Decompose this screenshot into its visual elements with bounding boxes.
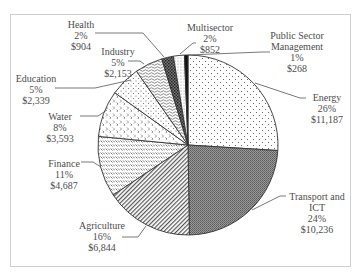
label-energy-name: Energy [307, 92, 347, 103]
label-education: Education 5% $2,339 [14, 73, 58, 106]
label-water-value: $3,593 [40, 133, 80, 144]
label-health: Health 2% $904 [66, 19, 96, 52]
label-psm-name2: Management [264, 41, 330, 52]
label-industry: Industry 5% $2,153 [98, 46, 138, 79]
label-industry-value: $2,153 [98, 68, 138, 79]
label-public-sector-management: Public Sector Management 1% $268 [264, 30, 330, 74]
label-agriculture-percent: 16% [76, 231, 128, 242]
label-industry-name: Industry [98, 46, 138, 57]
label-multisector: Multisector 2% $852 [185, 22, 235, 55]
label-multisector-name: Multisector [185, 22, 235, 33]
label-transport-name2: ICT [284, 202, 350, 213]
label-transport: Transport and ICT 24% $10,236 [284, 191, 350, 235]
label-agriculture-name: Agriculture [76, 220, 128, 231]
label-water: Water 8% $3,593 [40, 111, 80, 144]
label-education-name: Education [14, 73, 58, 84]
label-education-percent: 5% [14, 84, 58, 95]
label-water-percent: 8% [40, 122, 80, 133]
label-energy: Energy 26% $11,187 [307, 92, 347, 125]
pie-slice-transport-and-ict [188, 145, 278, 235]
label-psm-value: $268 [264, 63, 330, 74]
pie-slices [98, 55, 278, 235]
label-psm-name: Public Sector [264, 30, 330, 41]
label-transport-name: Transport and [284, 191, 350, 202]
label-transport-percent: 24% [284, 213, 350, 224]
label-industry-percent: 5% [98, 57, 138, 68]
label-education-value: $2,339 [14, 95, 58, 106]
label-multisector-percent: 2% [185, 33, 235, 44]
label-water-name: Water [40, 111, 80, 122]
label-health-percent: 2% [66, 30, 96, 41]
label-energy-percent: 26% [307, 103, 347, 114]
label-transport-value: $10,236 [284, 224, 350, 235]
label-finance: Finance 11% $4,687 [44, 158, 84, 191]
label-psm-percent: 1% [264, 52, 330, 63]
label-agriculture: Agriculture 16% $6,844 [76, 220, 128, 253]
label-health-name: Health [66, 19, 96, 30]
label-finance-percent: 11% [44, 169, 84, 180]
label-agriculture-value: $6,844 [76, 242, 128, 253]
label-health-value: $904 [66, 41, 96, 52]
label-finance-value: $4,687 [44, 180, 84, 191]
label-multisector-value: $852 [185, 44, 235, 55]
label-finance-name: Finance [44, 158, 84, 169]
label-energy-value: $11,187 [307, 114, 347, 125]
